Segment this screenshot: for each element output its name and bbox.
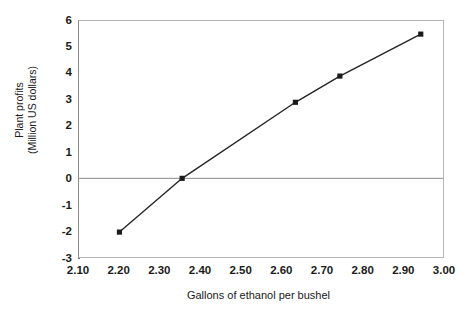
y-axis-title: Plant profits(Million US dollars) — [13, 35, 39, 185]
x-tick-label: 2.50 — [218, 264, 264, 277]
y-tick-label: -2 — [50, 226, 72, 237]
x-tick-label: 3.00 — [421, 264, 467, 277]
y-axis-title-line1: Plant profits — [13, 82, 25, 137]
y-tick-label: 4 — [50, 67, 72, 78]
x-axis-title: Gallons of ethanol per bushel — [0, 288, 473, 302]
y-tick-label: 2 — [50, 120, 72, 131]
x-tick-label: 2.10 — [55, 264, 101, 277]
x-tick-label: 2.60 — [258, 264, 304, 277]
data-series-markers — [117, 32, 423, 235]
x-tick-label: 2.40 — [177, 264, 223, 277]
chart-figure: 6543210-1-2-3 Plant profits(Million US d… — [0, 0, 473, 316]
y-tick-label: 5 — [50, 41, 72, 52]
y-tick-label: -1 — [50, 200, 72, 211]
data-point-marker — [337, 73, 342, 78]
x-tick-label: 2.30 — [136, 264, 182, 277]
plot-svg — [79, 21, 443, 257]
data-point-marker — [180, 176, 185, 181]
plot-area — [78, 20, 444, 258]
y-tick-label: 6 — [50, 15, 72, 26]
data-point-marker — [293, 100, 298, 105]
x-tick-label: 2.20 — [96, 264, 142, 277]
x-tick-label: 2.80 — [340, 264, 386, 277]
y-axis-title-line2: (Million US dollars) — [26, 66, 38, 154]
y-tick-label: 3 — [50, 94, 72, 105]
data-point-marker — [117, 230, 122, 235]
x-axis-tick-labels: 2.102.202.302.402.502.602.702.802.903.00 — [0, 264, 473, 280]
data-point-marker — [418, 32, 423, 37]
x-tick-label: 2.90 — [380, 264, 426, 277]
y-tick-label: 0 — [50, 173, 72, 184]
x-tick-label: 2.70 — [299, 264, 345, 277]
y-tick-label: -3 — [50, 253, 72, 264]
data-series-line — [119, 34, 420, 232]
y-tick-label: 1 — [50, 147, 72, 158]
